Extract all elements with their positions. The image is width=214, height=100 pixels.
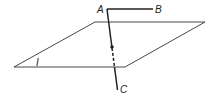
segment-a-to-plane [107, 9, 112, 48]
point-c-label: C [120, 84, 128, 95]
intersection-point [110, 45, 114, 49]
point-b-label: B [155, 4, 162, 15]
point-a-label: A [96, 4, 104, 15]
segment-hidden-dashed [112, 48, 115, 67]
geometry-diagram: I A B C [0, 0, 214, 100]
plane-label: I [36, 57, 39, 68]
segment-plane-to-c [115, 67, 118, 90]
